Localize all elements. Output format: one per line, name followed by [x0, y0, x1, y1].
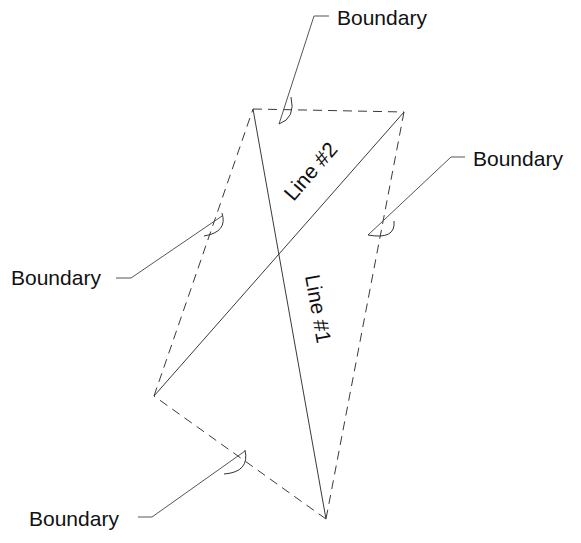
leader-line-top — [279, 16, 329, 124]
callout-boundary-right: Boundary — [368, 147, 563, 236]
boundary-label-right: Boundary — [473, 147, 563, 170]
boundary-label-top: Boundary — [337, 6, 427, 29]
boundary-label-left: Boundary — [11, 266, 101, 289]
callout-boundary-left: Boundary — [11, 213, 223, 289]
leader-line-bottom — [138, 451, 245, 517]
line-1-label: Line #1 — [301, 273, 336, 345]
boundary-arc-symbol-top — [279, 97, 292, 124]
callout-boundary-top: Boundary — [279, 6, 427, 124]
boundary-diagram: Line #2 Line #1 Boundary Boundary Bounda… — [0, 0, 581, 543]
line-2-label: Line #2 — [279, 138, 342, 205]
boundary-edge-bottom — [154, 396, 326, 519]
boundary-edge-top — [253, 109, 404, 112]
callout-boundary-bottom: Boundary — [29, 450, 246, 530]
leader-line-left — [116, 216, 222, 278]
boundary-edge-right — [326, 112, 404, 519]
line-2 — [154, 112, 404, 396]
boundary-polygon — [154, 109, 404, 519]
boundary-label-bottom: Boundary — [29, 507, 119, 530]
